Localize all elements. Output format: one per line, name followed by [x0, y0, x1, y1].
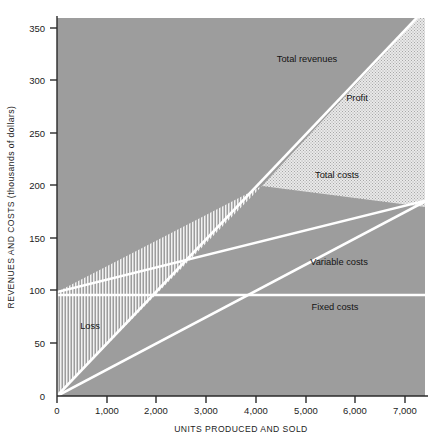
plot-area	[57, 6, 428, 396]
x-tick-label-3000: 3,000	[194, 405, 218, 416]
annotation-fixed-costs: Fixed costs	[311, 302, 358, 312]
break-even-chart: 350 300 250 200 150 100 50 0 0 1,000 2,0…	[0, 0, 439, 447]
x-tick-label-4000: 4,000	[244, 405, 268, 416]
annotation-total-revenues: Total revenues	[277, 54, 338, 64]
annotation-profit: Profit	[346, 93, 368, 103]
y-tick-label-0: 0	[40, 391, 45, 402]
annotation-variable-costs: Variable costs	[310, 257, 368, 267]
chart-svg: 350 300 250 200 150 100 50 0 0 1,000 2,0…	[0, 0, 439, 447]
y-tick-label-300: 300	[29, 75, 45, 86]
y-tick-label-200: 200	[29, 180, 45, 191]
y-tick-label-100: 100	[29, 285, 45, 296]
x-tick-label-1000: 1,000	[95, 405, 119, 416]
y-tick-label-150: 150	[29, 233, 45, 244]
annotation-total-costs: Total costs	[315, 170, 359, 180]
x-tick-label-0: 0	[54, 405, 59, 416]
y-tick-label-350: 350	[29, 23, 45, 34]
x-tick-label-5000: 5,000	[294, 405, 318, 416]
x-axis-title: UNITS PRODUCED AND SOLD	[174, 424, 308, 434]
x-tick-label-7000: 7,000	[393, 405, 417, 416]
x-tick-label-2000: 2,000	[144, 405, 168, 416]
annotation-loss: Loss	[80, 321, 100, 331]
y-tick-label-50: 50	[34, 338, 45, 349]
y-tick-label-250: 250	[29, 128, 45, 139]
x-tick-label-6000: 6,000	[343, 405, 367, 416]
y-axis-title: REVENUES AND COSTS (thousands of dollars…	[6, 106, 16, 309]
